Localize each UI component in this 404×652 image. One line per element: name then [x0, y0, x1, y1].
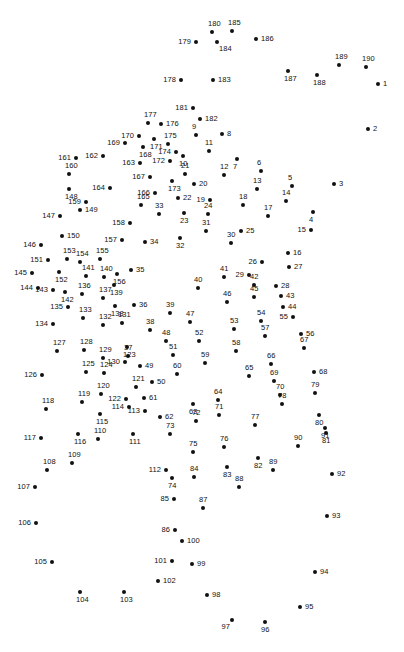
- dot-marker-161: [74, 156, 78, 160]
- dot-label-32: 32: [176, 242, 185, 250]
- dot-label-106: 106: [18, 519, 31, 527]
- dot-label-44: 44: [288, 303, 297, 311]
- dot-label-136: 136: [78, 282, 91, 290]
- dot-label-70: 70: [276, 383, 285, 391]
- dot-marker-18: [241, 203, 245, 207]
- dot-marker-72: [194, 419, 198, 423]
- dot-marker-134: [51, 322, 55, 326]
- dot-label-87: 87: [199, 496, 208, 504]
- dot-marker-14: [284, 199, 288, 203]
- dot-marker-131: [120, 321, 124, 325]
- dot-marker-82: [256, 456, 260, 460]
- dot-marker-187: [286, 69, 290, 73]
- dot-label-5: 5: [288, 174, 292, 182]
- dot-label-24: 24: [204, 202, 213, 210]
- dot-marker-34: [143, 240, 147, 244]
- dot-label-39: 39: [166, 301, 175, 309]
- dot-marker-83: [225, 465, 229, 469]
- dot-label-98: 98: [212, 591, 221, 599]
- dot-marker-46: [225, 300, 229, 304]
- dot-label-156: 156: [113, 278, 126, 286]
- dot-label-112: 112: [149, 466, 161, 474]
- dot-label-120: 120: [97, 382, 110, 390]
- dot-marker-15: [309, 228, 313, 232]
- dot-marker-169: [123, 141, 127, 145]
- dot-label-107: 107: [17, 483, 30, 491]
- dot-label-155: 155: [96, 247, 109, 255]
- dot-label-185: 185: [228, 19, 241, 27]
- dot-marker-162: [101, 154, 105, 158]
- dot-marker-47: [188, 320, 192, 324]
- dot-marker-50: [150, 380, 154, 384]
- dot-label-8: 8: [227, 130, 231, 138]
- dot-label-43: 43: [286, 292, 295, 300]
- dot-label-180: 180: [208, 20, 221, 28]
- dot-label-158: 158: [112, 219, 125, 227]
- dot-marker-133: [81, 316, 85, 320]
- dot-marker-99: [190, 562, 194, 566]
- dot-marker-189: [337, 63, 341, 67]
- dot-marker-123: [125, 345, 129, 349]
- dot-label-11: 11: [205, 139, 213, 147]
- dot-label-126: 126: [24, 371, 37, 379]
- dot-label-78: 78: [278, 392, 287, 400]
- dot-marker-148: [67, 187, 71, 191]
- dot-label-166: 166: [137, 189, 150, 197]
- dot-label-101: 101: [154, 557, 167, 565]
- dot-marker-62: [158, 415, 162, 419]
- dot-label-142: 142: [61, 296, 74, 304]
- dot-marker-101: [170, 559, 174, 563]
- dot-marker-151: [46, 258, 50, 262]
- dot-label-132: 132: [99, 313, 112, 321]
- dot-marker-26: [260, 260, 264, 264]
- dot-label-76: 76: [220, 435, 229, 443]
- dot-marker-60: [175, 372, 179, 376]
- dot-label-186: 186: [261, 35, 274, 43]
- dot-label-96: 96: [261, 626, 270, 634]
- dot-marker-157: [120, 238, 124, 242]
- dot-label-150: 150: [67, 232, 80, 240]
- dot-label-95: 95: [305, 603, 314, 611]
- dot-marker-43: [279, 294, 283, 298]
- dot-label-159: 159: [68, 198, 81, 206]
- dot-label-117: 117: [24, 434, 36, 442]
- dot-marker-20: [192, 182, 196, 186]
- dot-label-139: 139: [110, 289, 123, 297]
- dot-label-188: 188: [313, 79, 326, 87]
- dot-marker-16: [286, 251, 290, 255]
- dot-label-123: 123: [123, 351, 136, 359]
- dot-label-82: 82: [254, 462, 263, 470]
- dot-marker-98: [205, 593, 209, 597]
- dot-marker-90: [296, 444, 300, 448]
- dot-label-18: 18: [239, 193, 248, 201]
- dot-marker-8: [220, 132, 224, 136]
- dot-marker-7: [235, 157, 239, 161]
- dot-label-146: 146: [23, 241, 36, 249]
- dot-marker-76: [222, 445, 226, 449]
- dot-marker-12: [222, 173, 226, 177]
- dot-label-109: 109: [68, 451, 81, 459]
- dot-marker-144: [36, 286, 40, 290]
- dot-label-94: 94: [320, 568, 329, 576]
- dot-marker-102: [156, 579, 160, 583]
- dot-label-66: 66: [267, 352, 276, 360]
- dot-marker-118: [44, 407, 48, 411]
- dot-label-30: 30: [227, 231, 236, 239]
- dot-label-102: 102: [163, 577, 176, 585]
- dot-marker-71: [217, 413, 221, 417]
- dot-marker-147: [58, 214, 62, 218]
- dot-label-21: 21: [181, 162, 190, 170]
- dot-label-99: 99: [197, 560, 206, 568]
- dot-label-40: 40: [194, 276, 203, 284]
- dot-marker-146: [39, 243, 43, 247]
- dot-label-138: 138: [111, 310, 124, 318]
- dot-label-168: 168: [139, 151, 152, 159]
- dot-label-157: 157: [104, 236, 117, 244]
- dot-marker-105: [50, 560, 54, 564]
- dot-label-153: 153: [63, 247, 76, 255]
- dot-marker-158: [128, 221, 132, 225]
- dot-marker-117: [39, 436, 43, 440]
- dot-marker-66: [269, 362, 273, 366]
- dot-marker-106: [34, 521, 38, 525]
- dot-marker-88: [237, 485, 241, 489]
